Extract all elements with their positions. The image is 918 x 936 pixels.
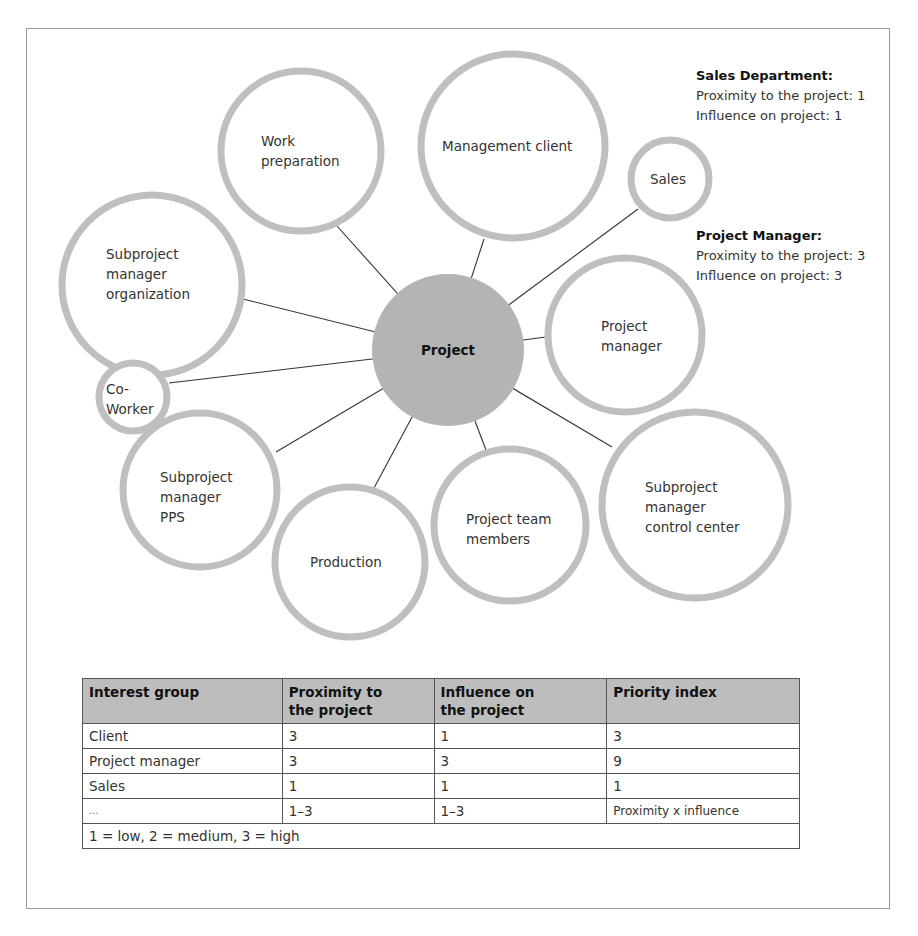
scale-legend: 1 = low, 2 = medium, 3 = high — [83, 824, 800, 849]
label-line: control center — [645, 517, 740, 537]
priority-table: Interest group Proximity tothe project I… — [82, 678, 800, 849]
table-row: Sales 1 1 1 — [83, 774, 800, 799]
node-label-work-preparation: Work preparation — [261, 131, 340, 171]
label-line: Project — [601, 316, 662, 336]
cell-group: Project manager — [83, 749, 283, 774]
note-project-manager: Project Manager: Proximity to the projec… — [696, 226, 865, 286]
node-label-production: Production — [310, 552, 382, 572]
note-influence: Influence on project: 1 — [696, 106, 865, 126]
center-label: Project — [408, 340, 488, 360]
cell-priority: 1 — [607, 774, 800, 799]
cell-proximity: 3 — [282, 724, 434, 749]
label-line: Subproject — [106, 244, 190, 264]
header-priority-index: Priority index — [607, 679, 800, 724]
label-line: Subproject — [645, 477, 740, 497]
note-proximity: Proximity to the project: 3 — [696, 246, 865, 266]
note-proximity: Proximity to the project: 1 — [696, 86, 865, 106]
header-influence: Influence onthe project — [434, 679, 607, 724]
label-line: Co- — [106, 379, 154, 399]
node-label-subproject-manager-organization: Subproject manager organization — [106, 244, 190, 304]
cell-proximity: 1 — [282, 774, 434, 799]
label-line: organization — [106, 284, 190, 304]
label-line: PPS — [160, 507, 233, 527]
label-line: Production — [310, 552, 382, 572]
label-line: Worker — [106, 399, 154, 419]
label-line: preparation — [261, 151, 340, 171]
label-line: Work — [261, 131, 340, 151]
table-footer-row: 1 = low, 2 = medium, 3 = high — [83, 824, 800, 849]
cell-priority: 3 — [607, 724, 800, 749]
cell-influence: 3 — [434, 749, 607, 774]
header-proximity: Proximity tothe project — [282, 679, 434, 724]
cell-group: ... — [83, 799, 283, 824]
cell-influence: 1–3 — [434, 799, 607, 824]
node-label-co-worker: Co- Worker — [106, 379, 154, 419]
cell-influence: 1 — [434, 774, 607, 799]
cell-group: Client — [83, 724, 283, 749]
label-line: manager — [601, 336, 662, 356]
table-header-row: Interest group Proximity tothe project I… — [83, 679, 800, 724]
label-line: manager — [645, 497, 740, 517]
label-line: manager — [160, 487, 233, 507]
table-row: Project manager 3 3 9 — [83, 749, 800, 774]
table-row: Client 3 1 3 — [83, 724, 800, 749]
node-label-subproject-manager-control-center: Subproject manager control center — [645, 477, 740, 537]
note-title: Sales Department: — [696, 66, 865, 86]
node-label-subproject-manager-pps: Subproject manager PPS — [160, 467, 233, 527]
label-line: Subproject — [160, 467, 233, 487]
cell-proximity: 1–3 — [282, 799, 434, 824]
note-influence: Influence on project: 3 — [696, 266, 865, 286]
label-line: members — [466, 529, 552, 549]
label-line: Sales — [650, 169, 686, 189]
cell-proximity: 3 — [282, 749, 434, 774]
node-label-project-manager: Project manager — [601, 316, 662, 356]
note-title: Project Manager: — [696, 226, 865, 246]
node-label-project-team-members: Project team members — [466, 509, 552, 549]
node-label-management-client: Management client — [442, 136, 572, 156]
label-line: Management client — [442, 136, 572, 156]
note-sales-department: Sales Department: Proximity to the proje… — [696, 66, 865, 126]
cell-influence: 1 — [434, 724, 607, 749]
cell-priority: 9 — [607, 749, 800, 774]
cell-group: Sales — [83, 774, 283, 799]
label-line: Project team — [466, 509, 552, 529]
label-line: manager — [106, 264, 190, 284]
node-label-sales: Sales — [650, 169, 686, 189]
header-interest-group: Interest group — [83, 679, 283, 724]
table-row: ... 1–3 1–3 Proximity x influence — [83, 799, 800, 824]
cell-priority: Proximity x influence — [607, 799, 800, 824]
